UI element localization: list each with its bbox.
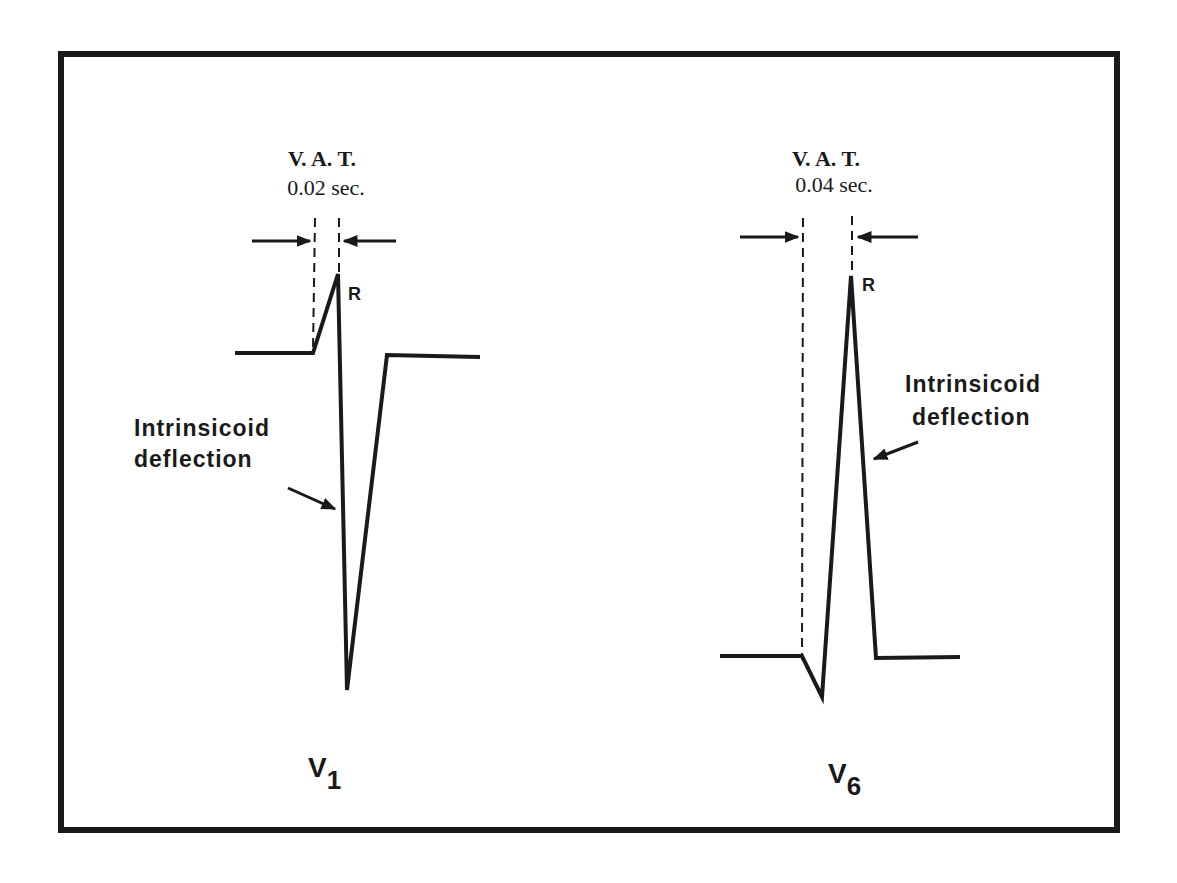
- v1-lead-subscript: 1: [327, 765, 341, 795]
- v1-annotation-line2: deflection: [134, 446, 253, 472]
- v1-vat-value: 0.02 sec.: [287, 175, 365, 200]
- v6-vat-title: V. A. T.: [792, 146, 860, 171]
- v6-annotation-line2: deflection: [912, 404, 1031, 430]
- v1-vat-title: V. A. T.: [288, 146, 356, 171]
- v1-lead-name: V: [308, 752, 327, 783]
- v1-annotation-arrow-icon: [288, 488, 335, 509]
- v1-qrs-waveform: [235, 274, 480, 690]
- v6-qrs-waveform: [720, 276, 960, 697]
- v6-r-wave-label: R: [862, 275, 875, 295]
- v1-r-wave-label: R: [348, 284, 361, 304]
- lead-v6-panel: V. A. T. 0.04 sec. R Intrinsicoid deflec…: [720, 146, 1041, 801]
- diagram-frame: [61, 54, 1117, 830]
- ecg-vat-diagram: V. A. T. 0.02 sec. R Intrinsicoid deflec…: [0, 0, 1177, 883]
- v6-annotation-arrow-icon: [874, 442, 918, 459]
- v6-lead-name: V: [828, 758, 847, 789]
- v1-lead-label: V1: [308, 752, 341, 795]
- v6-lead-label: V6: [828, 758, 861, 801]
- v1-onset-dashed-line: [313, 218, 315, 350]
- v6-lead-subscript: 6: [847, 771, 861, 801]
- v6-onset-dashed-line: [802, 218, 803, 660]
- lead-v1-panel: V. A. T. 0.02 sec. R Intrinsicoid deflec…: [134, 146, 480, 795]
- v6-annotation-line1: Intrinsicoid: [905, 371, 1041, 397]
- v1-annotation-line1: Intrinsicoid: [134, 415, 270, 441]
- v6-vat-value: 0.04 sec.: [795, 172, 873, 197]
